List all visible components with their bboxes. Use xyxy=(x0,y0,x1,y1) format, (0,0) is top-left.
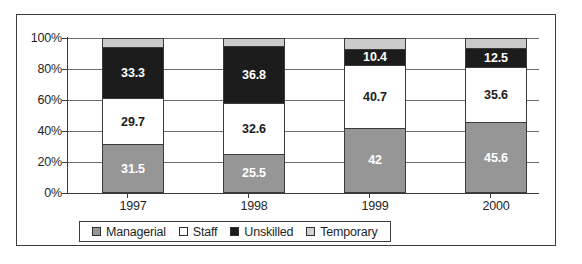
x-axis-label-1997: 1997 xyxy=(73,199,193,213)
segment-managerial-1999: 42 xyxy=(344,128,406,193)
legend-label-unskilled: Unskilled xyxy=(244,225,293,239)
chart-legend: Managerial Staff Unskilled Temporary xyxy=(79,221,391,242)
legend-item-unskilled[interactable]: Unskilled xyxy=(230,225,293,239)
segment-temporary-2000 xyxy=(465,38,527,48)
segment-temporary-1997 xyxy=(102,38,164,47)
y-axis-label-60: 60% xyxy=(16,93,62,107)
segment-temporary-1999 xyxy=(344,38,406,49)
y-axis-labels: 100% 80% 60% 40% 20% 0% xyxy=(16,38,62,193)
segment-unskilled-1997: 33.3 xyxy=(102,47,164,99)
x-tick-2 xyxy=(248,193,249,198)
y-axis-label-40: 40% xyxy=(16,124,62,138)
legend-label-staff: Staff xyxy=(193,225,217,239)
segment-staff-1998: 32.6 xyxy=(223,103,285,154)
plot-area: 33.3 29.7 31.5 36.8 32.6 25.5 xyxy=(67,38,539,193)
segment-unskilled-1998: 36.8 xyxy=(223,46,285,103)
bar-1997[interactable]: 33.3 29.7 31.5 xyxy=(102,38,164,193)
segment-value: 29.7 xyxy=(121,115,145,129)
y-tick-100 xyxy=(62,38,68,39)
segment-managerial-2000: 45.6 xyxy=(465,122,527,193)
segment-unskilled-1999: 10.4 xyxy=(344,49,406,65)
y-tick-40 xyxy=(62,131,68,132)
legend-item-staff[interactable]: Staff xyxy=(179,225,217,239)
x-axis-line xyxy=(66,193,539,194)
legend-swatch-staff-icon xyxy=(179,227,188,236)
segment-managerial-1997: 31.5 xyxy=(102,144,164,193)
bar-1999[interactable]: 10.4 40.7 42 xyxy=(344,38,406,193)
segment-value: 25.5 xyxy=(242,166,266,180)
segment-value: 12.5 xyxy=(484,51,508,65)
segment-value: 40.7 xyxy=(363,90,387,104)
bar-2000[interactable]: 12.5 35.6 45.6 xyxy=(465,38,527,193)
legend-swatch-unskilled-icon xyxy=(230,227,239,236)
segment-value: 42 xyxy=(368,153,382,167)
x-axis-label-1999: 1999 xyxy=(315,199,435,213)
segment-staff-1997: 29.7 xyxy=(102,98,164,144)
legend-item-managerial[interactable]: Managerial xyxy=(92,225,166,239)
x-tick-3 xyxy=(369,193,370,198)
stacked-bar-chart: 100% 80% 60% 40% 20% 0% 33.3 29.7 xyxy=(0,0,582,264)
legend-swatch-managerial-icon xyxy=(92,227,101,236)
x-axis-label-1998: 1998 xyxy=(194,199,314,213)
segment-value: 31.5 xyxy=(121,162,145,176)
y-axis-label-80: 80% xyxy=(16,62,62,76)
y-axis-label-20: 20% xyxy=(16,155,62,169)
x-tick-1 xyxy=(127,193,128,198)
bar-1998[interactable]: 36.8 32.6 25.5 xyxy=(223,38,285,193)
y-tick-20 xyxy=(62,162,68,163)
segment-managerial-1998: 25.5 xyxy=(223,154,285,194)
x-tick-4 xyxy=(490,193,491,198)
segment-staff-1999: 40.7 xyxy=(344,65,406,128)
segment-unskilled-2000: 12.5 xyxy=(465,48,527,67)
segment-value: 33.3 xyxy=(121,66,145,80)
segment-value: 45.6 xyxy=(484,151,508,165)
segment-value: 36.8 xyxy=(242,68,266,82)
y-tick-80 xyxy=(62,69,68,70)
segment-value: 10.4 xyxy=(363,50,387,64)
y-tick-0 xyxy=(62,193,68,194)
segment-value: 32.6 xyxy=(242,122,266,136)
legend-item-temporary[interactable]: Temporary xyxy=(306,225,377,239)
segment-value: 35.6 xyxy=(484,88,508,102)
legend-label-managerial: Managerial xyxy=(106,225,166,239)
x-axis-label-2000: 2000 xyxy=(436,199,556,213)
y-tick-60 xyxy=(62,100,68,101)
y-axis-label-100: 100% xyxy=(16,31,62,45)
y-axis-label-0: 0% xyxy=(16,186,62,200)
segment-temporary-1998 xyxy=(223,38,285,46)
legend-swatch-temporary-icon xyxy=(306,227,315,236)
legend-label-temporary: Temporary xyxy=(320,225,377,239)
segment-staff-2000: 35.6 xyxy=(465,67,527,122)
